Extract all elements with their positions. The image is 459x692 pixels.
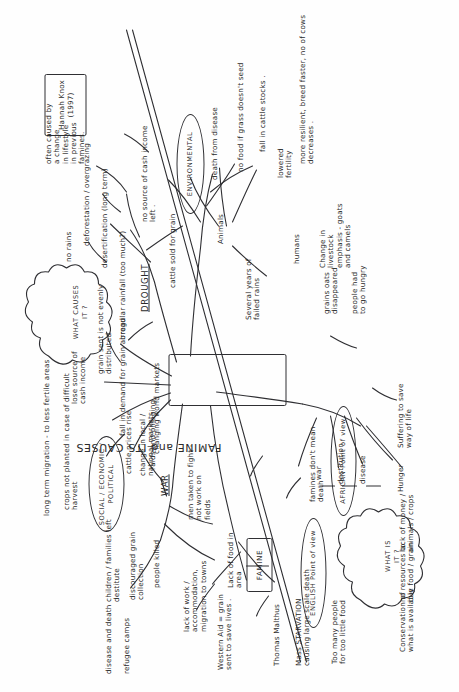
note-too-many-people-too-little-food: Too many people for too little food: [330, 600, 347, 664]
cloud-what-is-it: WHAT IS IT ?: [356, 510, 428, 602]
note-animals: Animals: [216, 214, 224, 244]
branch-environmental-label: ENVIRONMENTAL: [186, 132, 194, 197]
note-people-had-to-go-hungry: people had to go hungry: [350, 265, 367, 314]
note-people-killed: people killed: [152, 540, 160, 588]
note-war: war: [314, 466, 322, 480]
note-irregular-rainfall: irregular rainfall (too much?): [118, 231, 126, 340]
note-cattle-prices-rise: cattle prices rise: [124, 411, 132, 474]
note-men-taken-to-fight: men taken to fight - not work on fields: [186, 445, 211, 521]
note-disease-and-death: disease and death: [104, 604, 112, 674]
note-thomas-malthus: Thomas Malthus: [272, 604, 280, 666]
note-no-food-if-grass-doesnt-seed: no food if grass doesn't seed: [236, 62, 244, 172]
branch-drought-label: DROUGHT: [140, 264, 150, 312]
note-several-years-of-failed-rains: Several years of failed rains: [244, 259, 261, 321]
note-lack-of-food-in-area: Lack of food in area: [226, 532, 243, 588]
note-disease: disease: [358, 455, 366, 484]
note-lowered-fertility: lowered fertility: [276, 148, 293, 178]
note-cattle-sold-for-grain: cattle sold for grain: [168, 213, 176, 288]
note-discouraged-grain-collection: discouraged grain collection: [128, 532, 145, 600]
cloud-what-causes-it-label: WHAT CAUSES IT ?: [71, 285, 89, 340]
branch-environmental: ENVIRONMENTAL: [176, 114, 204, 214]
note-often-caused-by-change-in-lifestyle: often caused by a change in lifestyle in…: [44, 103, 85, 164]
note-fall-in-cattle-stocks: fall in cattle stocks .: [258, 75, 266, 152]
note-raids-and-pillaging: raids and pillaging: [148, 400, 156, 470]
note-conservation-of-what-is-available: Conservation of what is available: [398, 588, 415, 652]
note-suffering-to-save-way-of-life: Suffering to save way of life: [396, 383, 413, 448]
note-famines-dont-mean-death: famines don't mean death: [308, 426, 325, 502]
note-mass-starvation: Mass STARVATION causing large scale deat…: [294, 569, 311, 666]
english-famine-box: FAMINE: [246, 538, 272, 592]
branch-social-economic-political: SOCIAL / ECONOMIC / POLITICAL: [88, 436, 124, 532]
note-more-resilient-breed-faster: more resilient, breed faster, no of cows…: [298, 0, 315, 164]
note-no-rains: no rains: [64, 232, 72, 263]
note-lack-of-work-migration: lack of work / accommodation, migration …: [182, 561, 207, 632]
note-grain-sent-not-evenly-distributed: grain sent is not evenly distributed: [96, 285, 113, 374]
note-death-from-disease: death from disease: [210, 107, 218, 180]
note-change-in-livestock-emphasis: Change in livestock emphasis - goats and…: [318, 203, 351, 268]
note-no-source-of-cash-income-left: no source of cash income left .: [140, 125, 157, 222]
english-famine-label: FAMINE: [255, 550, 263, 580]
note-hunger: Hunger: [396, 464, 404, 492]
note-lose-source-of-cash-income: lose source of cash income: [70, 351, 87, 404]
note-humans: humans: [292, 234, 300, 264]
note-destitution: destitution: [336, 443, 344, 484]
branch-social-economic-political-label: SOCIAL / ECONOMIC / POLITICAL: [97, 443, 114, 526]
note-desertification-long-term: desertification (long term): [100, 168, 108, 268]
note-western-aid-grain: Western Aid = grain sent to save lives .: [216, 594, 233, 670]
mindmap-page: FAMINE and ITS CAUSES Hannah Knox (1997)…: [0, 0, 459, 692]
note-grains-oats-disappeared: grains oats disappeared: [322, 267, 339, 314]
note-long-term-migration: long term migration - to less fertile ar…: [42, 360, 50, 517]
note-refugee-camps: refugee camps: [122, 618, 130, 674]
paper-sheet: FAMINE and ITS CAUSES Hannah Knox (1997)…: [0, 0, 459, 692]
note-children-families-destitute: children / families left destitute: [104, 519, 121, 602]
branch-war-label: WAR: [160, 474, 170, 496]
central-topic-box: FAMINE and ITS CAUSES: [168, 354, 286, 406]
